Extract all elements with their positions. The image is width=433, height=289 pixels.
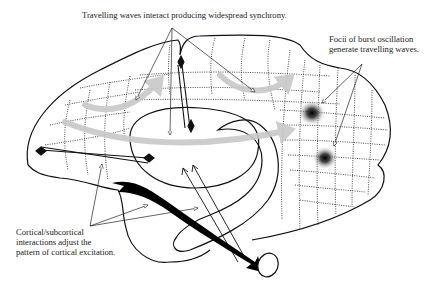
annotation-left-line1: Cortical/subcortical — [16, 227, 84, 237]
burst-focus-upper — [298, 100, 326, 126]
annotation-left-line2: interactions adjust the — [16, 237, 91, 247]
annotation-right-line1: Focii of burst oscillation — [329, 34, 413, 44]
thalamus-outline — [130, 107, 259, 188]
burst-focus-lower — [312, 146, 338, 170]
annotation-left-line3: pattern of cortical excitation. — [16, 247, 115, 257]
right-pointers — [322, 64, 362, 146]
top-pointers — [136, 28, 255, 135]
annotation-right-line2: generate travelling waves. — [329, 44, 419, 54]
annotation-top: Travelling waves interact producing wide… — [82, 10, 287, 20]
brainstem — [254, 250, 281, 279]
